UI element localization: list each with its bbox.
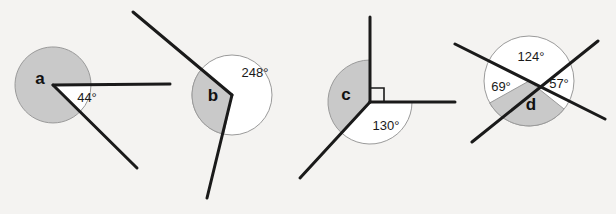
figure-b-angle-label: 248° — [242, 65, 269, 80]
figure-a-angle-label: 44° — [77, 90, 97, 105]
angle-diagrams-worksheet: a 44° b 248° c 130° — [0, 0, 616, 214]
figure-a-ray-horizontal-right — [53, 84, 170, 85]
figure-c-right-angle-icon — [370, 88, 384, 102]
figure-d-angle-label-left: 69° — [491, 79, 511, 94]
figure-c-angle-label: 130° — [373, 118, 400, 133]
figure-a-letter: a — [35, 69, 45, 88]
figure-b-letter: b — [208, 86, 218, 105]
figure-b-ray-upper-left — [133, 12, 232, 95]
figure-d-angle-label-right: 57° — [549, 76, 569, 91]
figure-d: d 124° 69° 57° — [455, 36, 605, 142]
figure-d-angle-label-top: 124° — [518, 49, 545, 64]
figure-c: c 130° — [300, 17, 455, 178]
figure-a: a 44° — [15, 47, 170, 168]
diagram-canvas: a 44° b 248° c 130° — [0, 0, 616, 214]
figure-b: b 248° — [133, 12, 272, 198]
figure-c-letter: c — [341, 85, 350, 104]
figure-d-letter: d — [526, 95, 536, 114]
